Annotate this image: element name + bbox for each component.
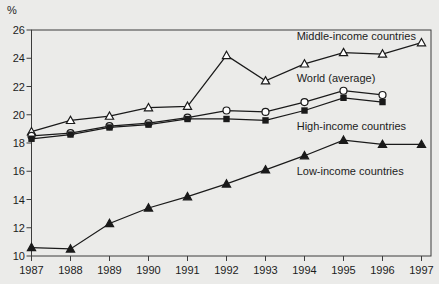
y-tick-label: 16 bbox=[13, 165, 25, 177]
marker-triangle-open bbox=[222, 51, 230, 58]
x-tick-label: 1991 bbox=[175, 264, 199, 276]
x-tick-label: 1996 bbox=[370, 264, 394, 276]
chart-svg: 1012141618202224261987198819891990199119… bbox=[0, 0, 439, 284]
marker-circle-open bbox=[262, 108, 269, 115]
x-tick-label: 1989 bbox=[97, 264, 121, 276]
x-tick-label: 1992 bbox=[214, 264, 238, 276]
series-label: High-income countries bbox=[297, 120, 407, 132]
marker-square-filled bbox=[223, 116, 229, 122]
marker-square-filled bbox=[262, 117, 268, 123]
series-label: World (average) bbox=[297, 72, 376, 84]
marker-circle-open bbox=[340, 87, 347, 94]
y-tick-label: 24 bbox=[13, 52, 25, 64]
y-tick-label: 22 bbox=[13, 81, 25, 93]
marker-circle-open bbox=[379, 91, 386, 98]
series-label: Low-income countries bbox=[297, 165, 404, 177]
x-tick-label: 1997 bbox=[409, 264, 433, 276]
marker-circle-open bbox=[223, 107, 230, 114]
marker-circle-open bbox=[301, 99, 308, 106]
y-tick-label: 10 bbox=[13, 250, 25, 262]
marker-triangle-open bbox=[261, 77, 269, 84]
marker-square-filled bbox=[379, 99, 385, 105]
marker-triangle-filled bbox=[339, 136, 347, 143]
x-tick-label: 1988 bbox=[58, 264, 82, 276]
marker-square-filled bbox=[28, 136, 34, 142]
marker-square-filled bbox=[67, 131, 73, 137]
marker-square-filled bbox=[184, 116, 190, 122]
series-line-low-income-countries bbox=[32, 140, 422, 249]
marker-triangle-open bbox=[417, 39, 425, 46]
marker-triangle-open bbox=[339, 48, 347, 55]
y-tick-label: 14 bbox=[13, 194, 25, 206]
y-tick-label: 12 bbox=[13, 222, 25, 234]
marker-square-filled bbox=[340, 95, 346, 101]
x-tick-label: 1994 bbox=[292, 264, 316, 276]
series-label: Middle-income countries bbox=[297, 30, 417, 42]
marker-square-filled bbox=[106, 124, 112, 130]
marker-square-filled bbox=[301, 107, 307, 113]
chart-figure: % 10121416182022242619871988198919901991… bbox=[0, 0, 439, 284]
x-tick-label: 1987 bbox=[19, 264, 43, 276]
y-tick-label: 26 bbox=[13, 24, 25, 36]
marker-triangle-filled bbox=[27, 243, 35, 250]
x-tick-label: 1990 bbox=[136, 264, 160, 276]
series-line-high-income-countries bbox=[32, 98, 383, 139]
y-tick-label: 20 bbox=[13, 109, 25, 121]
marker-square-filled bbox=[145, 121, 151, 127]
x-tick-label: 1995 bbox=[331, 264, 355, 276]
y-tick-label: 18 bbox=[13, 137, 25, 149]
x-tick-label: 1993 bbox=[253, 264, 277, 276]
